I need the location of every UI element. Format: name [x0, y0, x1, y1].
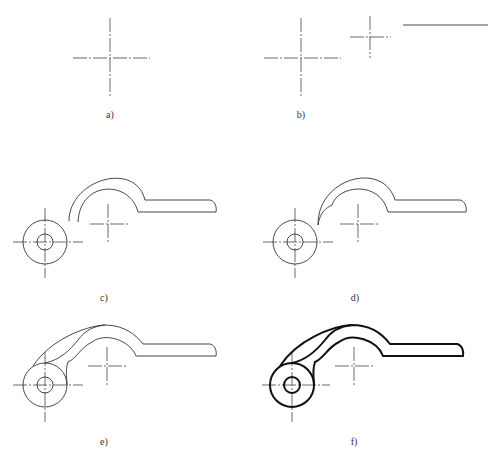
panel-b-drawing — [264, 16, 488, 98]
panel-d-drawing — [263, 178, 466, 278]
panel-d-label: d) — [351, 292, 359, 303]
panel-c-label: c) — [100, 292, 108, 303]
panel-e-label: e) — [100, 436, 108, 447]
panel-b-label: b) — [297, 109, 305, 120]
panel-f-drawing — [262, 325, 463, 422]
panel-a-drawing — [73, 18, 150, 98]
panel-a-label: a) — [106, 109, 114, 120]
panel-e-drawing — [13, 325, 216, 422]
panel-f-label: f) — [351, 436, 358, 447]
drawing-steps-canvas — [0, 0, 495, 460]
panel-c-drawing — [13, 178, 216, 278]
